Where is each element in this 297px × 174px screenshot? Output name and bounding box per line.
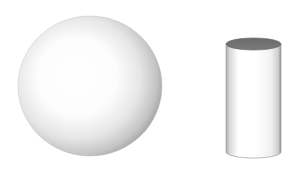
- sphere-object: [18, 16, 162, 156]
- cylinder-object: [226, 38, 281, 158]
- scene-svg: [0, 0, 297, 174]
- scene-canvas: 3D rendered sphere and cylinder on white…: [0, 0, 297, 174]
